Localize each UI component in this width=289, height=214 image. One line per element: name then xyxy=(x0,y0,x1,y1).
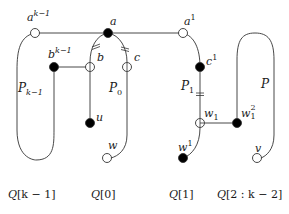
caption-Q-0: Q[0] xyxy=(91,188,116,201)
label-c-1: c1 xyxy=(206,56,217,67)
node-b-k-minus-1 xyxy=(50,63,59,72)
label-path-P: P xyxy=(261,78,269,90)
label-path-P0: P0 xyxy=(109,82,122,94)
label-a: a xyxy=(110,16,117,27)
caption-Q-k-minus-1: Q[k − 1] xyxy=(8,188,56,201)
label-w-1: w1 xyxy=(204,108,219,119)
path-P xyxy=(237,33,274,158)
label-path-P1: P1 xyxy=(181,80,194,92)
label-v: v xyxy=(255,143,261,154)
label-w: w xyxy=(108,140,117,151)
label-path-P-k-minus-1: Pk−1 xyxy=(18,82,43,94)
label-a-1: a1 xyxy=(184,16,196,27)
edge-a1-c1 xyxy=(183,33,200,67)
node-w xyxy=(103,154,112,163)
caption-Q-2-k-minus-2: Q[2 : k − 2] xyxy=(217,188,282,201)
label-w-sup-1: w1 xyxy=(178,142,193,153)
label-a-k-minus-1: ak−1 xyxy=(27,12,50,23)
label-w-1-2: w21 xyxy=(241,108,256,119)
node-u xyxy=(86,119,95,128)
label-b-k-minus-1: bk−1 xyxy=(48,49,72,60)
node-w-sup-1 xyxy=(179,154,188,163)
label-u: u xyxy=(96,112,103,123)
caption-Q-1: Q[1] xyxy=(169,188,194,201)
label-b: b xyxy=(97,52,104,63)
node-a xyxy=(104,29,113,38)
label-c: c xyxy=(134,52,140,63)
node-c-1 xyxy=(196,63,205,72)
node-a-1 xyxy=(179,29,188,38)
node-a-k-minus-1 xyxy=(31,29,40,38)
